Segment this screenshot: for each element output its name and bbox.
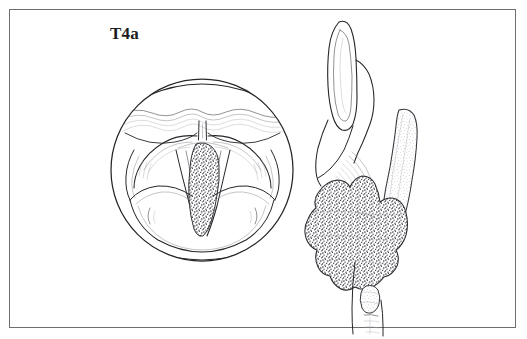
- illustration-canvas: [0, 0, 527, 339]
- figure-root: T4a: [0, 0, 527, 339]
- petiole: [199, 121, 207, 140]
- sagittal-section-view: [304, 21, 417, 336]
- epiglottis-sagittal: [328, 21, 357, 130]
- glottic-tumor: [188, 143, 221, 236]
- cricoid-cartilage: [360, 286, 380, 314]
- laryngoscopic-view: [111, 79, 293, 267]
